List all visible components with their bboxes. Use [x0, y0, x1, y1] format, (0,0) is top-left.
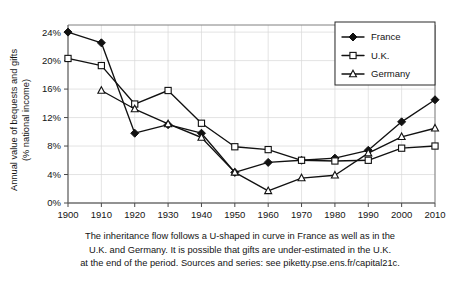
caption-line: at the end of the period. Sources and se… [80, 258, 400, 268]
y-tick-label: 0% [47, 197, 61, 208]
legend-label: Germany [371, 68, 410, 79]
x-tick-label: 1970 [291, 209, 312, 220]
marker-open-square [232, 144, 238, 150]
line-chart: 0%4%8%12%16%20%24% 190019101920193019401… [0, 0, 453, 285]
marker-open-square [98, 62, 104, 68]
chart-figure: 0%4%8%12%16%20%24% 190019101920193019401… [0, 0, 453, 285]
marker-open-square [365, 157, 371, 163]
y-tick-label: 24% [42, 27, 62, 38]
x-tick-label: 1930 [158, 209, 179, 220]
chart-legend: FranceU.K.Germany [335, 22, 435, 85]
x-tick-label: 1920 [124, 209, 145, 220]
marker-filled-diamond [131, 129, 139, 137]
marker-filled-diamond [64, 28, 72, 36]
x-tick-label: 2010 [424, 209, 445, 220]
marker-open-square [432, 143, 438, 149]
caption-line: U.K. and Germany. It is possible that gi… [89, 245, 391, 255]
marker-open-square [332, 158, 338, 164]
x-tick-label: 1900 [57, 209, 78, 220]
x-tick-label: 1910 [91, 209, 112, 220]
y-axis-title: Annual value of bequests and gifts (% na… [9, 49, 31, 191]
y-tick-label: 16% [42, 83, 62, 94]
legend-label: France [371, 31, 401, 42]
x-tick-label: 1990 [358, 209, 379, 220]
marker-filled-diamond [97, 39, 105, 47]
marker-open-triangle [432, 124, 439, 131]
x-axis-tick-labels: 1900191019201930194019501960197019801990… [57, 209, 445, 220]
marker-filled-diamond [431, 96, 439, 104]
y-tick-label: 4% [47, 169, 61, 180]
x-tick-label: 1940 [191, 209, 212, 220]
x-tick-label: 1960 [258, 209, 279, 220]
legend-label: U.K. [371, 50, 389, 61]
marker-filled-diamond [264, 158, 272, 166]
marker-open-square [198, 120, 204, 126]
y-axis-tick-labels: 0%4%8%12%16%20%24% [42, 27, 62, 209]
y-tick-label: 20% [42, 55, 62, 66]
x-tick-label: 1950 [224, 209, 245, 220]
chart-caption: The inheritance flow follows a U-shaped … [80, 231, 400, 268]
marker-open-square [265, 147, 271, 153]
x-tick-label: 1980 [324, 209, 345, 220]
marker-open-square [65, 55, 71, 61]
marker-open-triangle [98, 87, 105, 94]
y-axis-title-line2: (% national income) [21, 79, 31, 161]
y-tick-label: 12% [42, 112, 62, 123]
marker-open-square [350, 52, 356, 58]
caption-line: The inheritance flow follows a U-shaped … [85, 231, 395, 241]
marker-open-square [298, 157, 304, 163]
x-tick-label: 2000 [391, 209, 412, 220]
marker-open-square [399, 145, 405, 151]
y-tick-label: 8% [47, 140, 61, 151]
marker-open-square [165, 87, 171, 93]
y-axis-title-line1: Annual value of bequests and gifts [9, 49, 19, 191]
